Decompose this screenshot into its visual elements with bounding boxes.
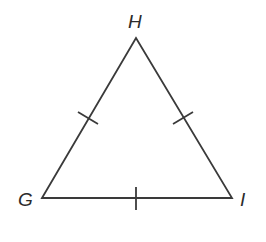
vertex-label-h: H [128,12,142,31]
tick-mark-gh [78,112,98,124]
vertex-label-g: G [18,190,33,209]
triangle-ghi [42,38,232,198]
triangle-diagram [0,0,266,242]
tick-mark-hi [173,112,193,124]
vertex-label-i: I [240,190,245,209]
